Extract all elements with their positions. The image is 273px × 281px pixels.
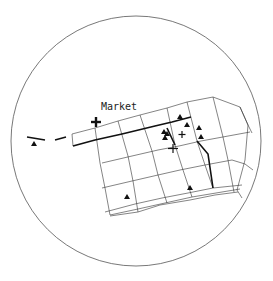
map-view[interactable]: Market [0,0,273,281]
market-label: Market [101,101,137,112]
map-boundary-circle [11,16,261,266]
